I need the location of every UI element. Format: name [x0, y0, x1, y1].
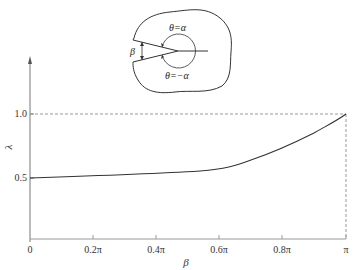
x-tick-label: 0	[28, 244, 33, 255]
x-tick-label: 0.2π	[84, 244, 102, 255]
theta-neg-alpha-label: θ=−α	[165, 70, 189, 81]
chart-root: β θ=α θ=−α 0 0.2π 0.4π 0.6π 0.8π π 0.5 1…	[0, 0, 358, 270]
y-tick-label: 0.5	[15, 172, 28, 183]
theta-alpha-label: θ=α	[169, 22, 187, 33]
x-ticks	[93, 235, 346, 239]
x-tick-label: π	[343, 244, 348, 255]
x-tick-label: 0.8π	[273, 244, 291, 255]
x-axis-label: β	[182, 256, 189, 268]
y-tick-label: 1.0	[15, 108, 28, 119]
y-axis-arrow-icon	[28, 56, 32, 64]
y-axis-label: λ	[2, 144, 14, 150]
axes	[28, 56, 346, 242]
y-ticks	[30, 114, 34, 178]
x-tick-label: 0.4π	[147, 244, 165, 255]
inset-notch-diagram: β θ=α θ=−α	[129, 10, 231, 93]
x-tick-label: 0.6π	[210, 244, 228, 255]
lambda-curve	[30, 114, 346, 178]
beta-label: β	[129, 46, 135, 57]
